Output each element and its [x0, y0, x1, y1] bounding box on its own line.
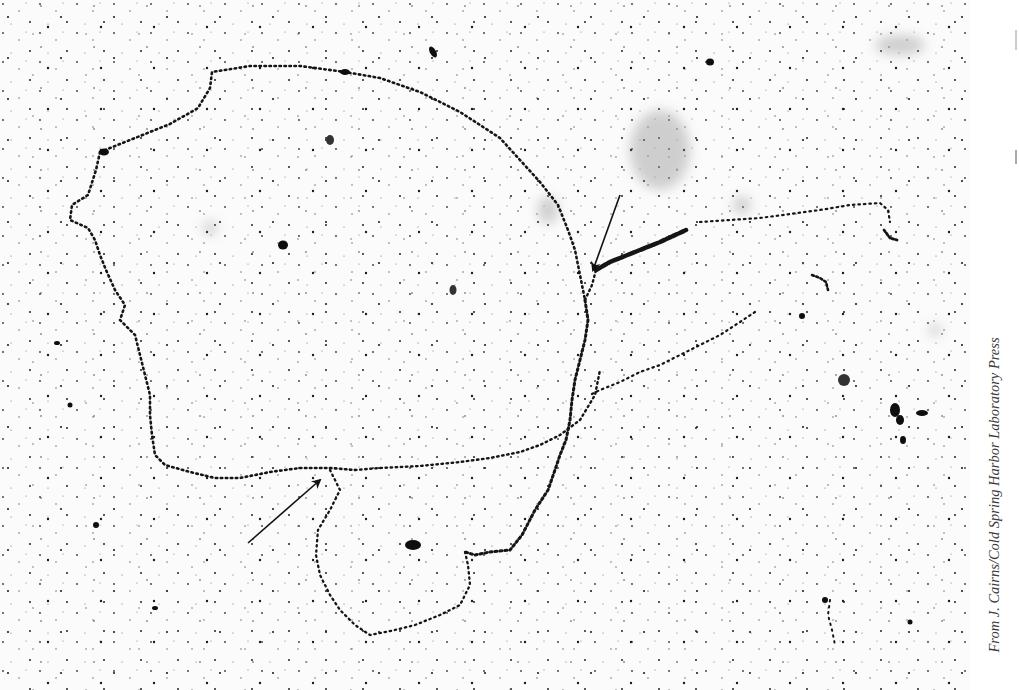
- edge-marks: [1014, 0, 1019, 220]
- dna-autoradiograph: [0, 0, 970, 690]
- autoradiograph-figure: [0, 0, 970, 690]
- background-grain-2: [0, 0, 970, 690]
- photo-credit: From J. Cairns/Cold Spring Harbor Labora…: [986, 337, 1003, 652]
